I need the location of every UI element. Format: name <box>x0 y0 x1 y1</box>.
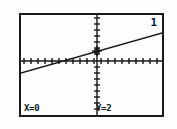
trace-cursor-icon <box>92 46 102 56</box>
scanned-page-background: 1 X=0 Y=2 <box>0 0 177 129</box>
trace-x-readout: X=0 <box>24 103 39 113</box>
function-plot-y1 <box>21 33 162 73</box>
y-axis <box>94 15 100 115</box>
x-axis <box>21 58 162 64</box>
graph-plot-area[interactable] <box>21 15 162 115</box>
graph-svg <box>21 15 162 115</box>
trace-y-readout: Y=2 <box>96 103 111 113</box>
calculator-screen: 1 X=0 Y=2 <box>19 13 164 117</box>
function-number-indicator: 1 <box>150 17 157 29</box>
